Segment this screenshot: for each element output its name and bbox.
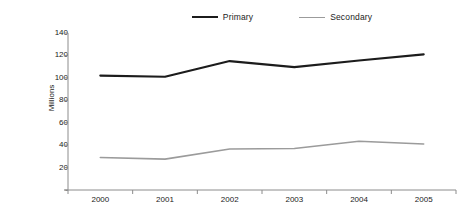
plot-area bbox=[0, 0, 468, 223]
line-chart: Primary Secondary Millions -204060801001… bbox=[0, 0, 468, 223]
series-line-secondary bbox=[100, 141, 423, 159]
series-line-primary bbox=[100, 54, 423, 76]
